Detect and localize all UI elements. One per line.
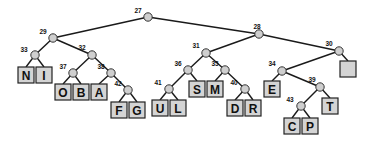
leaf-node-B: B [73, 84, 89, 100]
node-circle [107, 69, 115, 77]
node-number-label: 28 [253, 23, 261, 30]
internal-node-41: 41 [154, 79, 173, 93]
leaf-label: T [326, 100, 334, 114]
leaf-label: A [95, 86, 104, 100]
leaf-label: N [22, 69, 31, 83]
edge-28-31 [206, 34, 259, 53]
leaf-node-U: U [152, 100, 168, 116]
leaf-label: L [174, 102, 181, 116]
edge-29-32 [53, 38, 92, 55]
leaf-label: O [58, 86, 67, 100]
internal-node-34: 34 [268, 60, 286, 75]
leaf-label: C [288, 120, 297, 134]
node-circle [241, 85, 249, 93]
leaf-label: E [268, 83, 276, 97]
internal-node-35: 35 [211, 60, 229, 74]
internal-node-37: 37 [59, 63, 77, 77]
node-number-label: 27 [134, 7, 142, 14]
node-circle [31, 51, 39, 59]
node-number-label: 36 [174, 60, 182, 67]
node-circle [165, 85, 173, 93]
leaf-label: P [306, 120, 314, 134]
node-circle [88, 51, 96, 59]
leaf-node-I: I [36, 67, 52, 83]
node-circle [184, 66, 192, 74]
leaf-node-empty [340, 61, 356, 77]
leaf-node-M: M [207, 81, 223, 97]
node-circle [202, 49, 210, 57]
leaf-label: I [42, 69, 45, 83]
node-number-label: 42 [114, 80, 122, 87]
internal-node-36: 36 [174, 60, 192, 74]
internal-node-38: 38 [97, 63, 115, 77]
node-number-label: 34 [268, 60, 276, 67]
internal-node-28: 28 [253, 23, 263, 38]
leaf-node-C: C [284, 118, 300, 134]
node-circle [278, 67, 286, 75]
leaf-node-T: T [322, 98, 338, 114]
node-circle [316, 83, 324, 91]
leaf-label: D [231, 102, 240, 116]
leaf-node-A: A [91, 84, 107, 100]
node-number-label: 37 [59, 63, 67, 70]
leaf-label: B [77, 86, 86, 100]
node-number-label: 39 [308, 76, 316, 83]
internal-node-31: 31 [192, 42, 210, 57]
leaf-label: R [249, 102, 258, 116]
node-circle [144, 13, 152, 21]
node-number-label: 40 [230, 79, 238, 86]
node-number-label: 33 [20, 46, 28, 53]
leaf-label: S [193, 83, 201, 97]
internal-node-32: 32 [78, 44, 96, 59]
leaf-node-E: E [264, 81, 280, 97]
edge-30-34 [282, 51, 339, 71]
internal-node-42: 42 [114, 80, 132, 94]
tree-diagram: NIOBAFGULSMDRETCP 2729283332373842313036… [0, 0, 377, 141]
node-circle [124, 86, 132, 94]
node-circle [49, 34, 57, 42]
edge-27-28 [148, 17, 259, 34]
node-circle [335, 47, 343, 55]
internal-node-33: 33 [20, 46, 39, 59]
node-number-label: 43 [286, 96, 294, 103]
internal-node-40: 40 [230, 79, 249, 93]
leaf-label: U [156, 102, 165, 116]
leaf-node-D: D [227, 100, 243, 116]
leaf-box [340, 61, 356, 77]
leaf-node-S: S [189, 81, 205, 97]
leaf-node-O: O [55, 84, 71, 100]
node-number-label: 35 [211, 60, 219, 67]
leaf-node-R: R [245, 100, 261, 116]
leaf-node-N: N [18, 67, 34, 83]
node-circle [255, 30, 263, 38]
node-circle [297, 102, 305, 110]
node-number-label: 38 [97, 63, 105, 70]
leaf-label: F [115, 104, 122, 118]
node-circle [69, 69, 77, 77]
leaf-node-G: G [129, 102, 145, 118]
leaf-node-L: L [170, 100, 186, 116]
edge-27-29 [53, 17, 148, 38]
internal-node-29: 29 [39, 28, 57, 42]
leaf-label: M [210, 83, 220, 97]
internal-node-43: 43 [286, 96, 305, 110]
leaf-label: G [132, 104, 141, 118]
node-number-label: 29 [39, 28, 47, 35]
node-circle [221, 66, 229, 74]
node-number-label: 31 [192, 42, 200, 49]
node-number-label: 41 [154, 79, 162, 86]
node-number-label: 30 [325, 40, 333, 47]
node-number-label: 32 [78, 44, 86, 51]
leaf-node-F: F [111, 102, 127, 118]
leaf-node-P: P [302, 118, 318, 134]
